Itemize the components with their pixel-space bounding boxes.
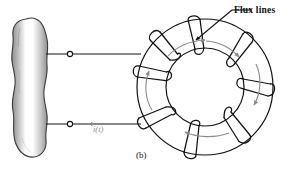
flux-arrow-icon: [254, 64, 260, 105]
leader-line-pointer: [196, 10, 232, 40]
figure-canvas: Flux lines i(t) (b): [0, 0, 293, 174]
winding-turns: [133, 16, 274, 159]
winding-turn: [138, 107, 176, 129]
winding-turn: [224, 107, 251, 143]
terminal-dot-icon[interactable]: [67, 51, 72, 56]
source-blob-body: [12, 18, 48, 157]
source-blob: [12, 18, 48, 157]
flux-arrow-icon: [146, 71, 152, 110]
current-label: i(t): [93, 124, 103, 134]
winding-turn: [149, 31, 180, 60]
flux-arrow-icon: [185, 132, 229, 137]
toroid-diagram: [0, 0, 293, 174]
lead-wires: [46, 51, 141, 126]
winding-turn: [237, 78, 275, 96]
flux-lines-label: Flux lines: [234, 5, 275, 15]
figure-caption: (b): [136, 150, 147, 160]
terminal-dot-icon[interactable]: [67, 121, 72, 126]
